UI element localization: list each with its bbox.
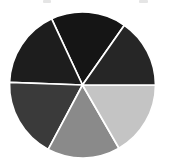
pie-chart-figure: Segment 1 16.7%Segment 2 16.7%Segment 3 … [0,0,169,166]
pie-slice-group: Segment 1 16.7%Segment 2 16.7%Segment 3 … [9,12,155,158]
pie-chart-svg[interactable]: Segment 1 16.7%Segment 2 16.7%Segment 3 … [0,0,169,166]
